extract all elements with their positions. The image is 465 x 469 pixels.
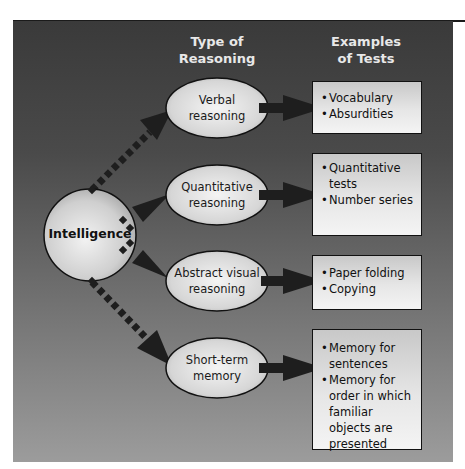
intelligence-label: Intelligence bbox=[44, 226, 136, 241]
dotted-connector-short-term bbox=[92, 282, 148, 340]
tests-box-short-term: Memory for sentences Memory for order in… bbox=[312, 329, 422, 450]
tests-box-quantitative: Quantitative tests Number series bbox=[312, 153, 422, 236]
test-item: Memory for order in which familiar objec… bbox=[321, 372, 417, 452]
label-line: Short-term bbox=[167, 352, 267, 368]
reasoning-label-short-term: Short-term memory bbox=[167, 352, 267, 384]
test-item: Copying bbox=[321, 281, 417, 297]
label-line: Quantitative bbox=[167, 179, 267, 195]
header-line: Examples bbox=[311, 33, 421, 50]
test-item: Absurdities bbox=[321, 106, 417, 122]
reasoning-label-abstract: Abstract visual reasoning bbox=[167, 265, 267, 297]
arrow-to-quantitative bbox=[132, 194, 170, 222]
label-line: Abstract visual bbox=[167, 265, 267, 281]
tests-box-abstract: Paper folding Copying bbox=[312, 255, 422, 310]
test-item: Vocabulary bbox=[321, 90, 417, 106]
tests-box-verbal: Vocabulary Absurdities bbox=[312, 81, 422, 134]
reasoning-label-verbal: Verbal reasoning bbox=[167, 92, 267, 124]
header-line: Type of bbox=[162, 33, 272, 50]
reasoning-label-quantitative: Quantitative reasoning bbox=[167, 179, 267, 211]
test-item: Paper folding bbox=[321, 265, 417, 281]
dotted-connector-verbal bbox=[92, 132, 150, 190]
label-line: Verbal bbox=[167, 92, 267, 108]
test-item: Memory for sentences bbox=[321, 340, 417, 372]
test-item: Quantitative tests bbox=[321, 160, 417, 192]
label-line: reasoning bbox=[167, 108, 267, 124]
test-item: Number series bbox=[321, 192, 417, 208]
label-line: reasoning bbox=[167, 195, 267, 211]
header-type-of-reasoning: Type of Reasoning bbox=[162, 33, 272, 67]
header-examples-of-tests: Examples of Tests bbox=[311, 33, 421, 67]
label-line: memory bbox=[167, 368, 267, 384]
arrow-to-abstract bbox=[132, 250, 168, 278]
header-line: of Tests bbox=[311, 50, 421, 67]
header-line: Reasoning bbox=[162, 50, 272, 67]
label-line: reasoning bbox=[167, 281, 267, 297]
